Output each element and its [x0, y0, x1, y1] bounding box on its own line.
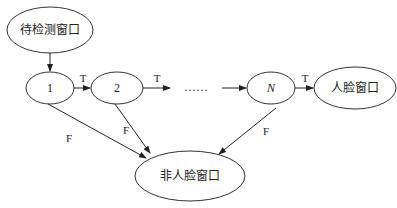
edge-label-n-face: T [302, 72, 309, 84]
edge-label-2-ellipsis: T [154, 72, 161, 84]
node-stage-n-label: N [266, 81, 276, 95]
node-stage-n: N [247, 72, 295, 104]
node-stage-1-label: 1 [47, 81, 53, 95]
node-stage-1: 1 [26, 72, 74, 104]
node-input-label: 待检测窗口 [20, 22, 80, 37]
node-input: 待检测窗口 [7, 7, 93, 53]
node-nonface-label: 非人脸窗口 [160, 169, 220, 183]
edge-label-n-nonface: F [263, 125, 269, 137]
node-face: 人脸窗口 [314, 67, 396, 109]
node-nonface: 非人脸窗口 [135, 151, 245, 201]
edge-label-2-nonface: F [123, 124, 129, 136]
node-stage-2: 2 [91, 72, 143, 104]
ellipsis-label: …… [184, 80, 208, 94]
cascade-diagram: 待检测窗口 1 2 …… N 人脸窗口 非人脸窗口 T T T F [0, 0, 397, 208]
edge-label-1-2: T [80, 72, 87, 84]
edge-2-to-nonface [115, 104, 150, 153]
edge-label-1-nonface: F [66, 132, 72, 144]
edge-1-to-nonface [48, 104, 146, 158]
node-face-label: 人脸窗口 [331, 81, 379, 95]
node-stage-2-label: 2 [114, 81, 120, 95]
edges [48, 53, 313, 158]
